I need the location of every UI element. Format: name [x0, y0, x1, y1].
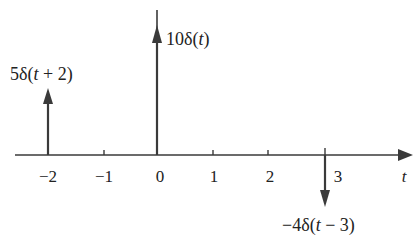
tick-label: 0 [156, 167, 165, 186]
axis-arrow-icon [398, 149, 413, 161]
tick-label: −2 [39, 167, 57, 186]
tick-label: 3 [334, 167, 343, 186]
down-arrow-icon [320, 190, 330, 207]
impulse-label: 10δ(t) [166, 29, 210, 50]
tick-label: 1 [210, 167, 219, 186]
tick-labels: −2 −1 0 1 2 3 t [39, 167, 408, 186]
impulse-label: −4δ(t − 3) [282, 215, 355, 236]
impulse-t-0: 10δ(t) [152, 25, 210, 155]
impulse-t-minus-2: 5δ(t + 2) [10, 64, 73, 155]
t-axis [15, 149, 413, 161]
axis-variable-label: t [402, 167, 408, 186]
tick-label: −1 [95, 167, 113, 186]
impulse-diagram: −2 −1 0 1 2 3 t 5δ(t + 2) 10δ(t) −4δ(t −… [0, 0, 419, 241]
up-arrow-icon [152, 25, 162, 43]
tick-label: 2 [266, 167, 275, 186]
up-arrow-icon [43, 88, 53, 104]
impulse-label: 5δ(t + 2) [10, 64, 73, 85]
impulse-t-3: −4δ(t − 3) [282, 155, 355, 236]
tick-marks [48, 148, 325, 155]
